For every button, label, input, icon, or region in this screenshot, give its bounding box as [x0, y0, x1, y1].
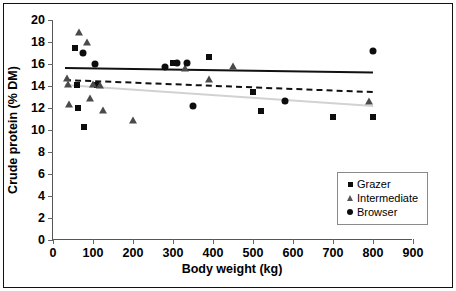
x-axis-tick	[53, 239, 54, 244]
y-axis-title: Crude protein (% DM)	[4, 20, 22, 240]
filled-circle-icon	[344, 209, 356, 215]
y-axis-tick-label: 6	[38, 167, 45, 181]
data-point-grazer	[250, 89, 256, 95]
x-axis-tick-label: 400	[203, 246, 224, 260]
x-axis-tick	[213, 239, 214, 244]
data-point-grazer	[81, 124, 87, 130]
data-point-grazer	[72, 45, 78, 51]
legend-item-label: Browser	[357, 206, 397, 218]
data-point-intermediate	[65, 100, 73, 107]
legend-marker	[348, 182, 353, 187]
data-point-browser	[370, 47, 377, 54]
data-point-intermediate	[129, 117, 137, 124]
data-point-intermediate	[86, 95, 94, 102]
x-axis-tick	[413, 239, 414, 244]
y-axis-tick-label: 14	[31, 79, 45, 93]
trendline-2	[65, 84, 373, 107]
legend-item-browser: Browser	[344, 205, 422, 219]
y-axis-tick-label: 16	[31, 57, 45, 71]
x-axis-tick-label: 200	[123, 246, 144, 260]
data-point-intermediate	[64, 80, 72, 87]
data-point-intermediate	[99, 107, 107, 114]
data-point-browser	[162, 64, 169, 71]
x-axis-tick	[173, 239, 174, 244]
x-axis-tick-label: 100	[83, 246, 104, 260]
x-axis-tick	[93, 239, 94, 244]
y-axis-tick-label: 4	[38, 189, 45, 203]
y-axis-tick-label: 20	[31, 13, 45, 27]
y-axis-tick	[48, 108, 53, 109]
legend-item-label: Grazer	[357, 178, 391, 190]
data-point-grazer	[206, 54, 212, 60]
legend-item-label: Intermediate	[357, 192, 418, 204]
data-point-browser	[282, 98, 289, 105]
x-axis-tick-label: 300	[163, 246, 184, 260]
data-point-browser	[190, 102, 197, 109]
y-axis-tick	[48, 196, 53, 197]
x-axis-tick	[333, 239, 334, 244]
data-point-intermediate	[205, 76, 213, 83]
figure-container: Crude protein (% DM) Body weight (kg) 02…	[0, 0, 456, 291]
y-axis-title-text: Crude protein (% DM)	[6, 66, 20, 194]
data-point-browser	[184, 59, 191, 66]
x-axis-tick	[373, 239, 374, 244]
data-point-intermediate	[365, 98, 373, 105]
y-axis-tick	[48, 218, 53, 219]
x-axis-tick	[293, 239, 294, 244]
y-axis-tick	[48, 42, 53, 43]
x-axis-tick-label: 600	[283, 246, 304, 260]
y-axis-tick-label: 18	[31, 35, 45, 49]
data-point-grazer	[75, 105, 81, 111]
y-axis-tick	[48, 130, 53, 131]
x-axis-tick	[133, 239, 134, 244]
legend-item-grazer: Grazer	[344, 177, 422, 191]
data-point-intermediate	[229, 63, 237, 70]
y-axis-tick	[48, 64, 53, 65]
y-axis-tick	[48, 174, 53, 175]
y-axis-tick-label: 8	[38, 145, 45, 159]
y-axis-tick-label: 0	[38, 233, 45, 247]
y-axis-tick	[48, 86, 53, 87]
y-axis-tick-label: 2	[38, 211, 45, 225]
x-axis-tick-label: 800	[363, 246, 384, 260]
x-axis-tick-label: 0	[50, 246, 57, 260]
y-axis-tick-label: 10	[31, 123, 45, 137]
data-point-intermediate	[75, 29, 83, 36]
legend: GrazerIntermediateBrowser	[337, 172, 428, 225]
trendline-0	[65, 67, 373, 73]
data-point-grazer	[330, 114, 336, 120]
data-point-browser	[174, 59, 181, 66]
legend-item-intermediate: Intermediate	[344, 191, 422, 205]
data-point-intermediate	[96, 81, 104, 88]
data-point-browser	[80, 50, 87, 57]
data-point-grazer	[258, 108, 264, 114]
x-axis-tick-label: 700	[323, 246, 344, 260]
legend-marker	[347, 195, 353, 201]
open-triangle-icon	[344, 195, 356, 201]
data-point-browser	[92, 61, 99, 68]
x-axis-title: Body weight (kg)	[52, 262, 412, 276]
y-axis-tick	[48, 20, 53, 21]
filled-square-icon	[344, 182, 356, 187]
data-point-grazer	[74, 82, 80, 88]
x-axis-tick-label: 500	[243, 246, 264, 260]
x-axis-tick	[253, 239, 254, 244]
y-axis-tick-label: 12	[31, 101, 45, 115]
legend-marker	[347, 209, 353, 215]
x-axis-tick-label: 900	[403, 246, 424, 260]
y-axis-tick	[48, 152, 53, 153]
data-point-intermediate	[83, 39, 91, 46]
data-point-grazer	[370, 114, 376, 120]
